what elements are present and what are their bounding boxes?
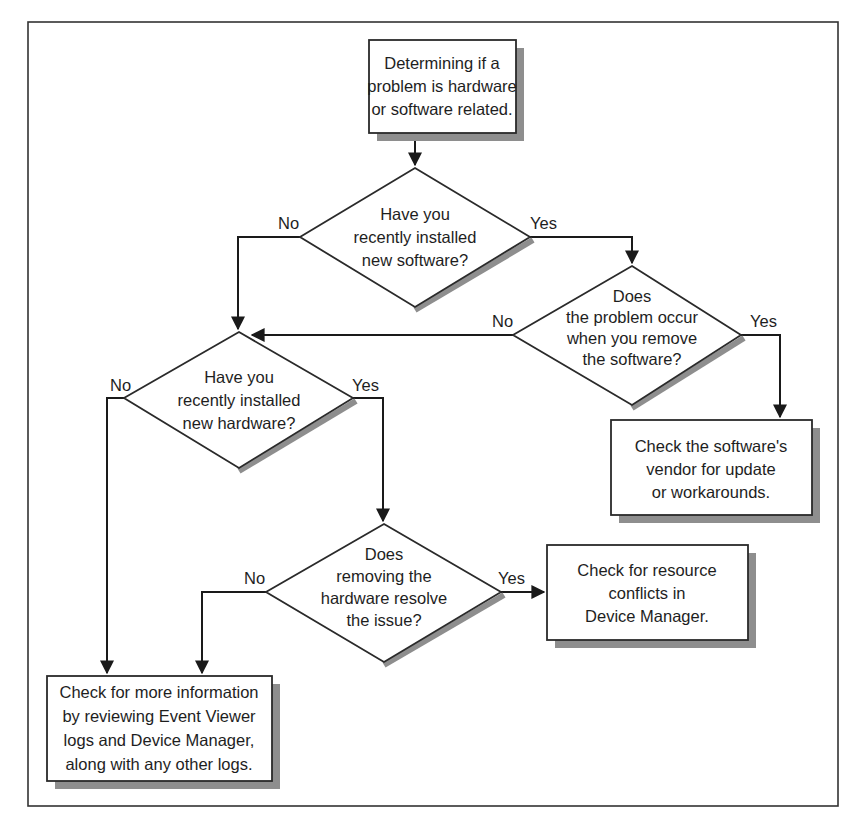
decision-remove-hardware-line-3: hardware resolve	[321, 589, 448, 607]
edge-q-new-hardware-yes	[353, 398, 383, 521]
decision-new-hardware-line-2: recently installed	[178, 391, 301, 409]
label-q-new-hardware-no: No	[110, 376, 131, 394]
node-check-logs-line-2: by reviewing Event Viewer	[62, 707, 256, 725]
node-check-logs-line-3: logs and Device Manager,	[64, 731, 255, 749]
decision-new-software-line-3: new software?	[362, 251, 468, 269]
decision-new-software-line-1: Have you	[380, 205, 450, 223]
label-q-remove-software-yes: Yes	[750, 312, 777, 330]
label-q-remove-software-no: No	[492, 312, 513, 330]
node-start: Determining if a problem is hardware or …	[367, 40, 524, 141]
decision-remove-software-line-2: the problem occur	[566, 308, 699, 326]
node-check-resources-line-1: Check for resource	[577, 561, 716, 579]
decision-new-hardware-line-1: Have you	[204, 368, 274, 386]
edge-q-remove-software-yes	[741, 335, 780, 417]
node-check-resources: Check for resource conflicts in Device M…	[547, 545, 756, 648]
node-start-line-2: problem is hardware	[367, 77, 516, 95]
node-check-logs-line-4: along with any other logs.	[65, 755, 252, 773]
decision-new-software: Have you recently installed new software…	[300, 168, 533, 310]
label-q-new-hardware-yes: Yes	[352, 376, 379, 394]
edge-q-remove-hardware-no	[202, 592, 266, 673]
decision-remove-software-line-1: Does	[613, 287, 652, 305]
node-start-line-1: Determining if a	[384, 54, 500, 72]
flowchart-canvas: No Yes No Yes No Yes No Yes Determining …	[0, 0, 863, 825]
node-check-logs: Check for more information by reviewing …	[47, 676, 280, 789]
edge-q-new-hardware-no	[107, 398, 124, 673]
node-check-vendor-line-2: vendor for update	[646, 460, 775, 478]
node-start-line-3: or software related.	[371, 100, 512, 118]
label-q-remove-hardware-no: No	[244, 569, 265, 587]
node-check-resources-line-2: conflicts in	[608, 584, 685, 602]
decision-new-software-line-2: recently installed	[354, 228, 477, 246]
decision-remove-software-line-4: the software?	[582, 350, 681, 368]
decision-remove-hardware-line-1: Does	[365, 545, 404, 563]
node-check-logs-line-1: Check for more information	[60, 683, 259, 701]
label-q-new-software-no: No	[278, 214, 299, 232]
decision-remove-hardware: Does removing the hardware resolve the i…	[266, 524, 504, 665]
edge-q-new-software-no	[238, 237, 300, 329]
label-q-remove-hardware-yes: Yes	[498, 569, 525, 587]
node-check-vendor-line-1: Check the software's	[635, 437, 788, 455]
decision-remove-software: Does the problem occur when you remove t…	[513, 266, 744, 408]
decision-remove-hardware-line-2: removing the	[336, 567, 431, 585]
node-check-vendor-line-3: or workarounds.	[652, 483, 770, 501]
edge-q-new-software-yes	[530, 237, 632, 263]
node-check-vendor: Check the software's vendor for update o…	[611, 420, 820, 523]
decision-new-hardware-line-3: new hardware?	[183, 414, 296, 432]
node-check-resources-line-3: Device Manager.	[585, 607, 709, 625]
label-q-new-software-yes: Yes	[530, 214, 557, 232]
decision-remove-software-line-3: when you remove	[566, 329, 697, 347]
decision-new-hardware: Have you recently installed new hardware…	[124, 332, 356, 471]
decision-remove-hardware-line-4: the issue?	[346, 611, 421, 629]
